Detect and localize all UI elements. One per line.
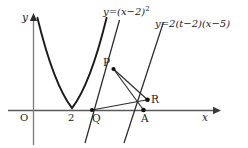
x-axis-arrowhead bbox=[213, 107, 221, 114]
point-label-a: A bbox=[141, 113, 149, 124]
x-axis bbox=[8, 107, 221, 114]
x-axis-label: x bbox=[202, 112, 208, 123]
y-axis bbox=[30, 13, 37, 145]
x-tick-label-2: 2 bbox=[68, 113, 74, 123]
origin-label: O bbox=[20, 113, 28, 123]
point-label-q: Q bbox=[92, 113, 101, 124]
line-2t2x5 bbox=[124, 22, 164, 143]
equation-parabola-base: (x−2) bbox=[117, 6, 145, 17]
point-label-p: P bbox=[103, 57, 110, 68]
segment-p-r bbox=[114, 69, 148, 100]
point-dot-r bbox=[145, 98, 150, 103]
equation-label-parabola: y=(x−2)2 bbox=[103, 6, 150, 17]
point-label-r: R bbox=[151, 94, 159, 105]
point-dot-p bbox=[111, 67, 115, 71]
y-axis-arrowhead bbox=[30, 13, 37, 21]
y-axis-label: y bbox=[22, 12, 28, 23]
tangent-line-through-P bbox=[85, 20, 120, 143]
equation-parabola-equals: = bbox=[109, 6, 117, 17]
parabola-curve bbox=[37, 18, 106, 108]
equation-label-line: y=2(t−2)(x−5) bbox=[155, 19, 230, 29]
equation-parabola-exponent: 2 bbox=[145, 5, 149, 13]
math-graph-figure: y=(x−2)2 y=2(t−2)(x−5) x y O 2 P Q R A bbox=[0, 0, 248, 148]
